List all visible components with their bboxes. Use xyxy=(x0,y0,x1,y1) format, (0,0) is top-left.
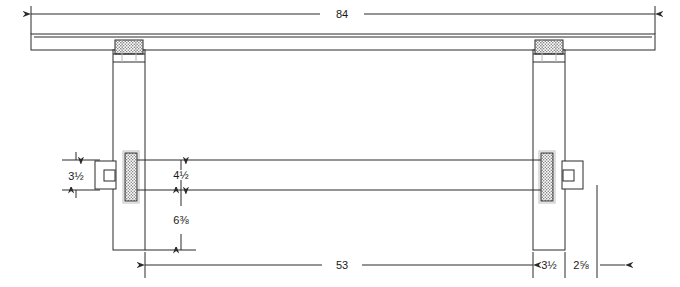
dimension-label-stretcher-to-floor: 6⅜ xyxy=(173,214,189,226)
part-stretcher xyxy=(137,160,541,190)
technical-drawing-canvas: 84 3½ 4½ 6⅜ 53 3½ 2⅝ xyxy=(0,0,680,287)
part-tenon-end-right xyxy=(562,161,583,189)
part-leg-right xyxy=(533,40,565,250)
trestle-table-elevation: 84 3½ 4½ 6⅜ 53 3½ 2⅝ xyxy=(0,0,680,287)
dimension-label-between-legs: 53 xyxy=(336,259,348,271)
dimension-label-leg-width: 3½ xyxy=(541,259,556,271)
dimension-label-top-overhang: 2⅝ xyxy=(573,259,589,271)
part-tenon-end-left xyxy=(95,161,116,189)
dimension-label-stretcher-height: 3½ xyxy=(68,170,83,182)
dimension-top-overhang xyxy=(597,185,625,278)
part-wedge-left xyxy=(123,151,139,203)
part-wedge-right xyxy=(539,151,555,203)
dimension-label-tenon-offset: 4½ xyxy=(173,169,188,181)
part-leg-left xyxy=(113,40,145,250)
dimension-label-overall-width: 84 xyxy=(336,8,348,20)
